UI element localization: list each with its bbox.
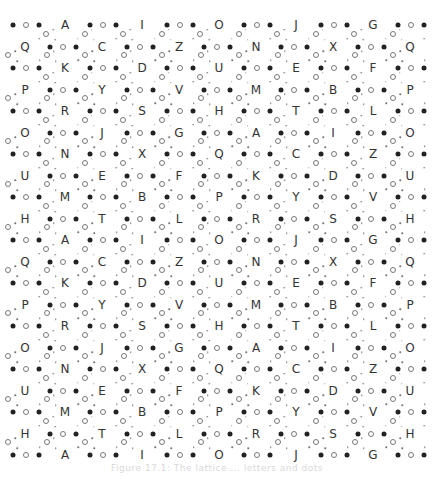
speck-dot [115,253,117,255]
speck-dot [77,275,79,277]
speck-dot [347,60,349,62]
small-open-circle [275,267,281,273]
speck-dot [116,60,118,62]
speck-dot [193,189,195,191]
speck-dot [130,137,132,139]
small-open-circle [82,224,88,230]
speck-dot [269,210,271,212]
speck-dot [208,39,210,41]
speck-dot [363,190,365,192]
small-open-circle [82,74,88,80]
speck-dot [247,125,249,127]
speck-dot [132,104,134,106]
filled-dot [11,367,16,372]
speck-dot [16,147,18,149]
filled-dot [345,367,350,372]
small-open-circle [352,52,358,58]
speck-dot [423,382,425,384]
lattice-letter: I [331,342,335,354]
speck-dot [424,103,426,105]
filled-dot [125,259,130,264]
filled-dot [345,281,350,286]
speck-dot [322,395,324,397]
open-circle [177,366,183,372]
speck-dot [245,72,247,74]
speck-dot [401,233,403,235]
speck-dot [308,339,310,341]
filled-dot [202,345,207,350]
speck-dot [170,233,172,235]
speck-dot [130,180,132,182]
speck-dot [130,51,132,53]
filled-dot [319,195,324,200]
open-circle [60,44,66,50]
speck-dot [385,447,387,449]
speck-dot [360,287,362,289]
speck-dot [93,383,95,385]
open-circle [60,130,66,136]
speck-dot [247,319,249,321]
small-open-circle [236,332,242,338]
speck-dot [154,404,156,406]
small-open-circle [43,31,49,37]
speck-dot [285,125,287,127]
filled-dot [305,87,310,92]
small-open-circle [351,117,357,123]
speck-dot [132,405,134,407]
filled-dot [37,367,42,372]
small-open-circle [121,267,127,273]
speck-dot [385,124,387,126]
speck-dot [231,146,233,148]
speck-dot [285,211,287,213]
small-open-circle [197,246,203,252]
open-circle [254,366,260,372]
filled-dot [11,453,16,458]
small-open-circle [313,117,319,123]
speck-dot [308,447,310,449]
lattice-letter: R [61,320,69,332]
speck-dot [170,147,172,149]
small-open-circle [236,31,242,37]
speck-dot [193,232,195,234]
speck-dot [170,254,172,256]
speck-dot [168,352,170,354]
small-open-circle [390,74,396,80]
open-circle [177,22,183,28]
speck-dot [55,448,57,450]
speck-dot [399,29,401,31]
open-circle [331,323,337,329]
small-open-circle [120,289,126,295]
small-open-circle [159,138,165,144]
speck-dot [132,233,134,235]
filled-dot [396,410,401,415]
filled-dot [268,23,273,28]
speck-dot [168,115,170,117]
lattice-letter: M [251,84,261,96]
lattice-letter: V [175,299,183,311]
speck-dot [168,416,170,418]
speck-dot [399,72,401,74]
small-open-circle [390,332,396,338]
speck-dot [385,81,387,83]
speck-dot [192,38,194,40]
open-circle [254,237,260,243]
filled-dot [191,23,196,28]
speck-dot [53,51,55,53]
open-circle [214,216,220,222]
speck-dot [284,223,286,225]
speck-dot [247,104,249,106]
speck-dot [14,137,16,139]
small-open-circle [197,74,203,80]
speck-dot [154,103,156,105]
speck-dot [54,39,56,41]
open-circle [177,323,183,329]
speck-dot [39,60,41,62]
lattice-letter: E [292,62,300,74]
filled-dot [74,345,79,350]
speck-dot [399,438,401,440]
filled-dot [422,453,427,458]
speck-dot [286,104,288,106]
small-open-circle [82,246,88,252]
filled-dot [242,238,247,243]
lattice-letter: Q [214,363,223,375]
